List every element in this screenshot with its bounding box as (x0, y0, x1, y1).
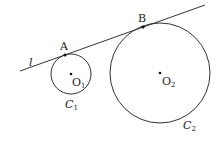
tangent-line-l (20, 5, 205, 71)
line-label-l: l (29, 56, 33, 69)
point-label-b: B (138, 12, 146, 25)
center-o1-dot (70, 73, 73, 76)
point-label-a: A (59, 40, 69, 53)
point-a-dot (63, 53, 66, 56)
center-label-o2: O2 (162, 75, 176, 89)
center-label-o1: O1 (72, 76, 86, 90)
circle-label-c2: C2 (183, 119, 196, 133)
center-o2-dot (159, 72, 162, 75)
diagram-canvas: l A B O1 O2 C1 C2 (0, 0, 221, 148)
circle-label-c1: C1 (65, 98, 78, 112)
point-b-dot (141, 25, 144, 28)
